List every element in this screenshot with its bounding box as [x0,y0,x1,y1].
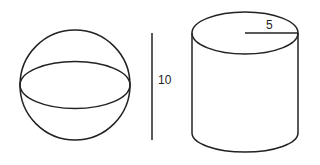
sphere-outline [20,30,130,140]
height-indicator: 10 [152,33,172,140]
diagram-canvas: 10 5 [0,0,320,165]
sphere-equator [20,62,130,109]
cylinder-bottom [192,133,298,152]
sphere [20,30,130,140]
radius-label: 5 [266,18,273,32]
height-label: 10 [158,73,172,87]
cylinder [192,12,298,152]
